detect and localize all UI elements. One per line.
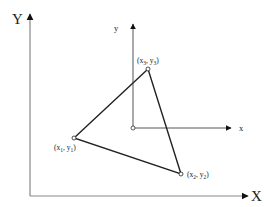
triangle-edges <box>74 69 181 174</box>
global-y-label: Y <box>12 11 23 27</box>
global-frame: Y X <box>12 11 262 204</box>
vertex-p1-marker <box>72 136 76 140</box>
vertex-p1-label: (x1, y1) <box>54 143 76 153</box>
local-frame: y x <box>114 23 244 133</box>
vertex-p2-label: (x2, y2) <box>187 170 209 180</box>
coordinate-diagram: Y X y x (x3, y3) (x1, y1) (x2, y2) <box>0 0 264 207</box>
triangle <box>72 67 183 176</box>
local-origin-marker <box>131 126 135 130</box>
vertex-p3-marker <box>146 67 150 71</box>
vertex-p2-marker <box>179 172 183 176</box>
global-x-label: X <box>251 188 262 204</box>
vertex-p3-label: (x3, y3) <box>137 56 159 66</box>
local-y-label: y <box>114 23 119 33</box>
local-x-label: x <box>239 123 244 133</box>
